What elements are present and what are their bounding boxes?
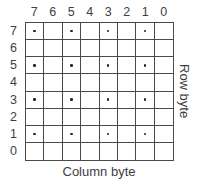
- grid-cell: [155, 143, 173, 160]
- grid-cell: [100, 92, 118, 109]
- grid-cell: [44, 92, 62, 109]
- grid-cell: [81, 126, 99, 143]
- dot: [33, 133, 36, 136]
- grid-cell: [136, 74, 154, 91]
- grid-cell: [100, 57, 118, 74]
- column-label: 7: [25, 4, 44, 20]
- column-label: 2: [118, 4, 137, 20]
- row-label: 5: [6, 57, 21, 74]
- dot: [144, 98, 147, 101]
- grid-cell: [81, 40, 99, 57]
- grid-cell: [63, 23, 81, 40]
- grid-cell: [26, 92, 44, 109]
- row-axis-label-wrap: Row byte: [175, 22, 193, 160]
- column-label: 1: [136, 4, 155, 20]
- grid-cell: [81, 109, 99, 126]
- column-label: 0: [155, 4, 174, 20]
- grid-cell: [118, 109, 136, 126]
- row-label: 4: [6, 74, 21, 91]
- grid-cell: [118, 23, 136, 40]
- row-axis-label: Row byte: [177, 64, 192, 118]
- grid-cell: [136, 92, 154, 109]
- dot: [70, 98, 73, 101]
- column-axis-label: Column byte: [25, 164, 173, 179]
- grid-cell: [81, 92, 99, 109]
- grid-cell: [63, 109, 81, 126]
- grid-cell: [100, 74, 118, 91]
- dot: [33, 64, 36, 67]
- grid-cell: [26, 143, 44, 160]
- grid-cell: [63, 74, 81, 91]
- row-label: 3: [6, 91, 21, 108]
- column-labels: 76543210: [25, 4, 173, 20]
- grid-cell: [155, 23, 173, 40]
- grid-cell: [100, 143, 118, 160]
- row-label: 1: [6, 126, 21, 143]
- grid-cell: [155, 126, 173, 143]
- grid-cell: [118, 143, 136, 160]
- grid-cell: [44, 143, 62, 160]
- column-label: 5: [62, 4, 81, 20]
- grid-cell: [118, 57, 136, 74]
- grid-cell: [26, 40, 44, 57]
- dot: [144, 30, 147, 33]
- grid-cell: [63, 126, 81, 143]
- grid-cell: [26, 57, 44, 74]
- grid-cell: [100, 109, 118, 126]
- grid-cell: [100, 23, 118, 40]
- grid-cell: [63, 57, 81, 74]
- grid-cell: [136, 23, 154, 40]
- grid-cell: [26, 109, 44, 126]
- grid-cell: [155, 40, 173, 57]
- dot: [144, 64, 147, 67]
- grid-cell: [155, 109, 173, 126]
- grid-cell: [81, 23, 99, 40]
- grid-cell: [136, 40, 154, 57]
- grid-cell: [44, 40, 62, 57]
- column-label: 6: [44, 4, 63, 20]
- row-label: 7: [6, 22, 21, 39]
- grid-cell: [118, 126, 136, 143]
- dot: [144, 133, 147, 136]
- grid-cell: [118, 40, 136, 57]
- grid-cell: [155, 74, 173, 91]
- column-label: 3: [99, 4, 118, 20]
- grid-cell: [136, 109, 154, 126]
- grid-cell: [44, 74, 62, 91]
- grid-cell: [81, 143, 99, 160]
- grid-cell: [63, 92, 81, 109]
- grid-cell: [44, 57, 62, 74]
- grid-cell: [136, 126, 154, 143]
- dot: [33, 98, 36, 101]
- grid-cell: [26, 126, 44, 143]
- row-label: 2: [6, 108, 21, 125]
- dot: [107, 64, 110, 67]
- dot: [70, 30, 73, 33]
- grid-cell: [155, 57, 173, 74]
- dot: [107, 98, 110, 101]
- byte-grid-figure: 76543210 76543210 Column byte Row byte: [0, 0, 197, 191]
- dot: [107, 133, 110, 136]
- grid-cell: [26, 23, 44, 40]
- grid-cell: [81, 57, 99, 74]
- grid-cell: [136, 143, 154, 160]
- grid: [25, 22, 174, 161]
- grid-cell: [44, 109, 62, 126]
- dot: [70, 133, 73, 136]
- grid-cell: [63, 143, 81, 160]
- grid-cell: [155, 92, 173, 109]
- grid-cell: [44, 126, 62, 143]
- row-label: 0: [6, 143, 21, 160]
- column-label: 4: [81, 4, 100, 20]
- grid-cell: [136, 57, 154, 74]
- dot: [107, 30, 110, 33]
- grid-cell: [63, 40, 81, 57]
- dot: [70, 64, 73, 67]
- grid-cell: [118, 92, 136, 109]
- row-label: 6: [6, 39, 21, 56]
- grid-cell: [26, 74, 44, 91]
- grid-cell: [100, 40, 118, 57]
- grid-cell: [118, 74, 136, 91]
- grid-cell: [100, 126, 118, 143]
- dot: [33, 30, 36, 33]
